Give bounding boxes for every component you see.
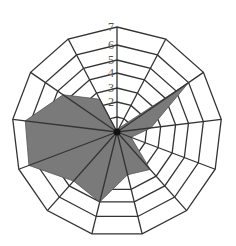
tick-label-4: 4 xyxy=(108,66,114,80)
tick-label-2: 2 xyxy=(108,95,114,109)
radar-chart: 234567 xyxy=(0,0,236,246)
tick-label-7: 7 xyxy=(108,20,114,34)
tick-label-3: 3 xyxy=(108,81,114,95)
tick-label-5: 5 xyxy=(108,53,114,67)
tick-label-6: 6 xyxy=(108,38,114,52)
center-point xyxy=(114,129,121,136)
radial-tick-labels: 234567 xyxy=(108,20,114,109)
